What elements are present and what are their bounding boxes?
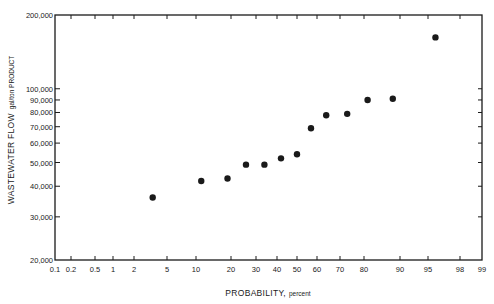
data-point <box>243 161 249 167</box>
x-tick-label: 10 <box>192 265 200 274</box>
x-axis-title-main: PROBABILITY, <box>225 288 286 298</box>
x-axis-title: PROBABILITY,percent <box>225 288 310 298</box>
x-tick-label: 60 <box>313 265 321 274</box>
y-tick-label: 40,000 <box>30 182 53 191</box>
y-axis-title-unit: gal/ton PRODUCT <box>8 56 16 109</box>
x-tick-label: 20 <box>227 265 235 274</box>
y-tick-label: 50,000 <box>30 159 53 168</box>
data-point <box>308 125 314 131</box>
y-tick-label: 100,000 <box>26 85 53 94</box>
x-tick-label: 99 <box>478 265 486 274</box>
plot-frame <box>55 15 482 260</box>
data-point <box>224 175 230 181</box>
y-axis-ticks: 20,00030,00040,00050,00060,00070,00080,0… <box>26 11 482 265</box>
y-tick-label: 20,000 <box>30 256 53 265</box>
y-axis-title: WASTEWATER FLOWgal/ton PRODUCT <box>6 56 16 205</box>
data-point <box>323 112 329 118</box>
y-axis-title-main: WASTEWATER FLOW <box>6 113 16 204</box>
data-point <box>261 161 267 167</box>
x-tick-label: 80 <box>360 265 368 274</box>
data-point <box>198 178 204 184</box>
x-tick-label: 50 <box>293 265 301 274</box>
y-tick-label: 30,000 <box>30 213 53 222</box>
y-tick-label: 90,000 <box>30 96 53 105</box>
x-tick-label: 90 <box>396 265 404 274</box>
x-tick-label: 1 <box>111 265 115 274</box>
plot-border <box>55 15 482 260</box>
data-point <box>294 151 300 157</box>
data-point <box>150 194 156 200</box>
x-tick-label: 70 <box>336 265 344 274</box>
x-tick-label: 30 <box>252 265 260 274</box>
x-tick-label: 40 <box>273 265 281 274</box>
y-tick-label: 200,000 <box>26 11 53 20</box>
x-tick-label: 95 <box>424 265 432 274</box>
x-axis-ticks: 0.10.20.5125102030405060708090959899 <box>50 15 486 274</box>
data-point <box>390 96 396 102</box>
x-tick-label: 0.2 <box>66 265 76 274</box>
x-tick-label: 5 <box>165 265 169 274</box>
x-tick-label: 0.5 <box>90 265 100 274</box>
data-point <box>364 97 370 103</box>
data-point <box>344 111 350 117</box>
data-point <box>432 34 438 40</box>
data-point <box>278 155 284 161</box>
y-tick-label: 80,000 <box>30 108 53 117</box>
x-tick-label: 2 <box>132 265 136 274</box>
y-tick-label: 70,000 <box>30 123 53 132</box>
probability-plot: 0.10.20.5125102030405060708090959899 20,… <box>0 0 494 304</box>
x-tick-label: 0.1 <box>50 265 60 274</box>
x-axis-title-unit: percent <box>289 290 311 298</box>
x-tick-label: 98 <box>456 265 464 274</box>
data-points <box>150 34 439 200</box>
y-tick-label: 60,000 <box>30 139 53 148</box>
